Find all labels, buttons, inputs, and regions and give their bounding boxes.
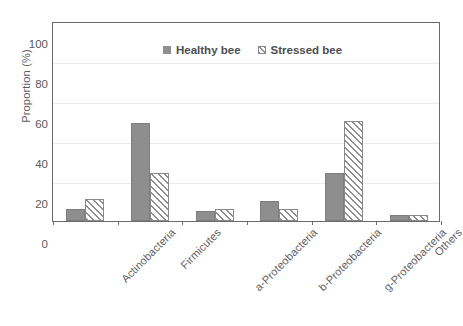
bar-chart-figure: Proportion (%) 020406080100 Healthy bee … — [0, 0, 463, 326]
y-axis-tick-label: 20 — [0, 198, 48, 210]
y-axis-tick-label: 60 — [0, 118, 48, 130]
x-axis-label-a-proteobacteria: a-Proteobacteria — [252, 226, 319, 293]
legend-label-healthy-bee: Healthy bee — [176, 44, 241, 56]
y-axis-tick-label: 80 — [0, 78, 48, 90]
bar-group — [376, 23, 441, 221]
y-axis-tick-label: 40 — [0, 158, 48, 170]
x-axis-tick-mark — [118, 221, 119, 225]
bar-group — [53, 23, 118, 221]
x-axis-tick-mark — [376, 221, 377, 225]
legend-swatch-solid-icon — [163, 46, 171, 54]
x-axis-tick-mark — [441, 221, 442, 225]
chart-legend: Healthy bee Stressed bee — [163, 44, 342, 56]
x-axis-tick-mark — [53, 221, 54, 225]
x-axis-tick-mark — [182, 221, 183, 225]
y-axis-tick-label: 0 — [0, 238, 48, 250]
y-axis-tick-label: 100 — [0, 38, 48, 50]
bar-stressed — [279, 209, 298, 221]
x-axis-tick-mark — [247, 221, 248, 225]
bar-stressed — [215, 209, 234, 221]
bar-healthy — [325, 173, 344, 221]
bar-stressed — [85, 199, 104, 221]
x-axis-label-firmicutes: Firmicutes — [178, 226, 223, 271]
bar-stressed — [344, 121, 363, 221]
bar-healthy — [390, 215, 409, 221]
legend-item-healthy-bee: Healthy bee — [163, 44, 241, 56]
x-axis-label-g-proteobacteria: g-Proteobacteria — [381, 226, 448, 293]
bar-healthy — [260, 201, 279, 221]
bar-healthy — [196, 211, 215, 221]
legend-item-stressed-bee: Stressed bee — [258, 44, 343, 56]
x-axis-tick-mark — [312, 221, 313, 225]
bar-stressed — [150, 173, 169, 221]
x-axis-category-labels: ActinobacteriaFirmicutesa-Proteobacteria… — [52, 226, 440, 326]
bar-healthy — [66, 209, 85, 221]
bar-stressed — [409, 215, 428, 221]
bar-healthy — [131, 123, 150, 221]
legend-label-stressed-bee: Stressed bee — [271, 44, 343, 56]
legend-swatch-hatched-icon — [258, 46, 266, 54]
x-axis-label-actinobacteria: Actinobacteria — [119, 226, 178, 285]
x-axis-label-b-proteobacteria: b-Proteobacteria — [317, 226, 384, 293]
